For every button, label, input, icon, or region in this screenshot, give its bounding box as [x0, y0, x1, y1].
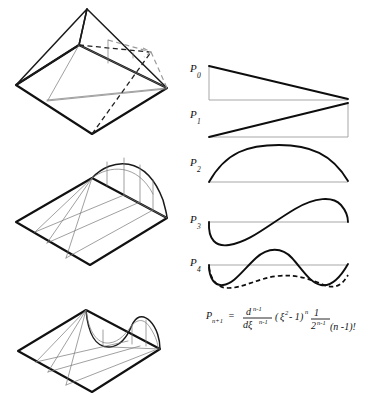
formula-denominator-exponent: n-1	[259, 318, 268, 325]
canvas-background	[0, 0, 368, 412]
plot-P0-subscript: 0	[197, 71, 201, 80]
formula-bracket-close: )	[299, 311, 304, 323]
plot-P3-subscript: 3	[196, 222, 201, 231]
formula-frac2-denominator-exponent: n-1	[317, 319, 326, 326]
formula-bracket-minus: - 1	[289, 311, 300, 322]
plot-P2-label: P	[189, 156, 197, 168]
plot-P2-subscript: 2	[197, 165, 201, 174]
formula-equals: =	[228, 310, 235, 321]
figure-canvas: P 0 P 1 P 2 P 3 P	[0, 0, 368, 412]
plot-P0-label: P	[189, 62, 197, 74]
formula-lhs-subscript: n+1	[212, 317, 223, 324]
formula-numerator-exponent: n-1	[253, 305, 262, 312]
figure-root: P 0 P 1 P 2 P 3 P	[0, 0, 368, 412]
formula-denominator-base: dξ	[243, 319, 253, 331]
formula-bracket-exponent: n	[305, 308, 308, 315]
formula-factorial-term: (n -1)!	[330, 321, 356, 333]
plot-P1-subscript: 1	[197, 117, 201, 126]
formula-frac2-numerator: 1	[314, 307, 319, 318]
plot-P1-label: P	[189, 108, 197, 120]
plot-P4-subscript: 4	[197, 265, 201, 274]
plot-P3-label: P	[189, 213, 197, 225]
plot-P4-label: P	[189, 256, 197, 268]
formula-frac2-denominator-base: 2	[311, 320, 316, 331]
